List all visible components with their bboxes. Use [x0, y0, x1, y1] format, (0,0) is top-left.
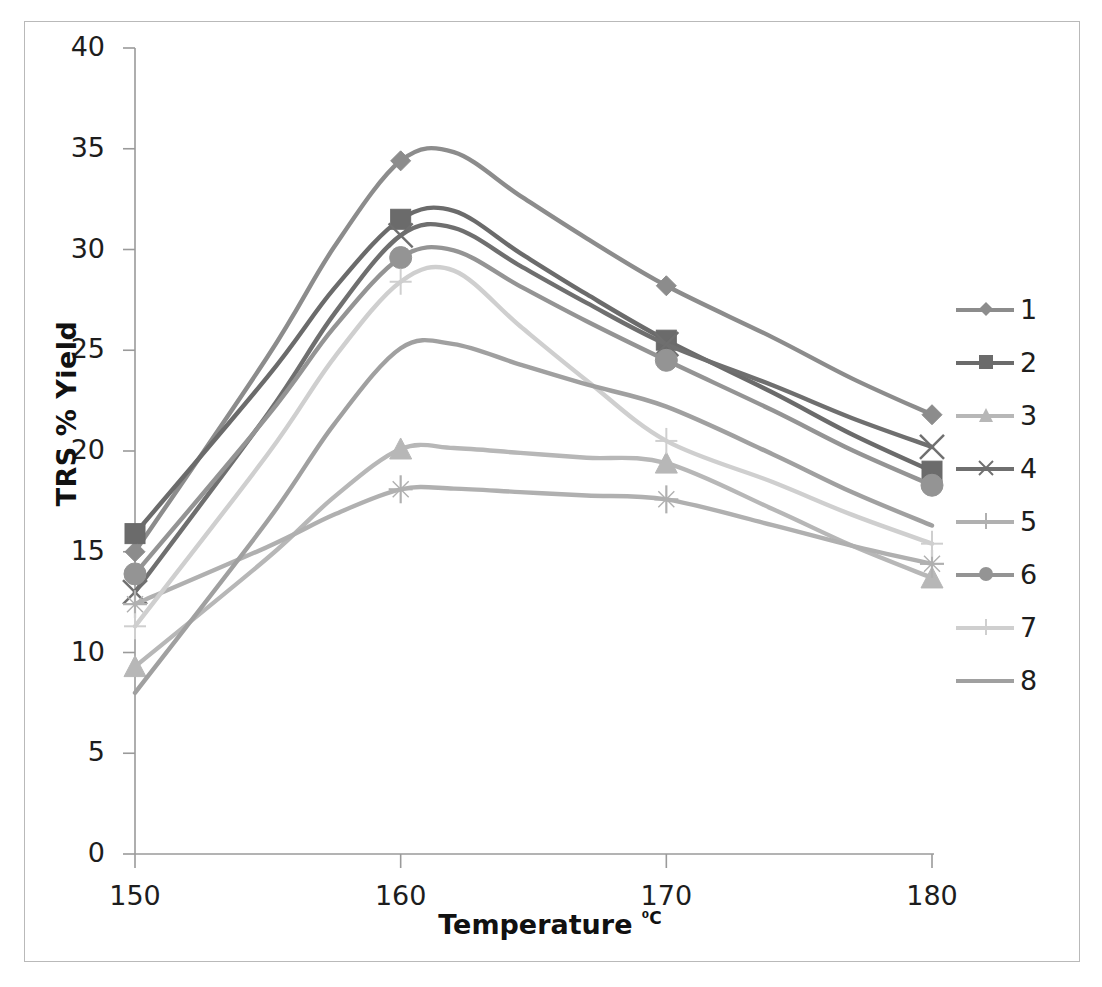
legend-swatch-4 — [956, 458, 1014, 480]
legend: 12345678 — [956, 283, 1071, 707]
legend-swatch-5 — [956, 511, 1014, 533]
y-tick-label: 5 — [45, 736, 105, 767]
legend-swatch-3 — [956, 405, 1014, 427]
y-tick-label: 40 — [45, 31, 105, 62]
data-point-2-150 — [125, 524, 145, 544]
legend-label-1: 1 — [1020, 296, 1037, 323]
legend-label-3: 3 — [1020, 402, 1037, 429]
x-axis-title: Temperature ⁰C — [300, 908, 800, 940]
legend-item-6[interactable]: 6 — [956, 548, 1071, 601]
data-point-4-180 — [920, 435, 944, 459]
legend-item-2[interactable]: 2 — [956, 336, 1071, 389]
x-tick-label: 160 — [356, 880, 446, 911]
legend-marker-triangle-icon — [977, 405, 995, 425]
data-point-6-170 — [655, 349, 677, 371]
data-point-6-180 — [921, 474, 943, 496]
legend-marker-dash-icon — [977, 617, 995, 637]
legend-label-5: 5 — [1020, 508, 1037, 535]
x-tick-label: 150 — [90, 880, 180, 911]
y-tick-label: 35 — [45, 132, 105, 163]
legend-item-7[interactable]: 7 — [956, 601, 1071, 654]
data-point-6-160 — [390, 247, 412, 269]
legend-label-7: 7 — [1020, 614, 1037, 641]
legend-marker-cross-icon — [977, 458, 995, 478]
y-axis-title: TRS % Yield — [51, 304, 82, 524]
legend-item-8[interactable]: 8 — [956, 654, 1071, 707]
y-tick-label: 15 — [45, 535, 105, 566]
legend-marker-diamond-icon — [977, 299, 995, 319]
chart-figure: 0510152025303540 150160170180 TRS % Yiel… — [0, 0, 1102, 987]
legend-item-4[interactable]: 4 — [956, 442, 1071, 495]
legend-swatch-2 — [956, 352, 1014, 374]
data-point-5-160 — [389, 475, 413, 503]
data-point-1-180 — [922, 405, 942, 425]
legend-item-1[interactable]: 1 — [956, 283, 1071, 336]
x-axis-title-degree: ⁰C — [642, 908, 662, 928]
x-tick-label: 170 — [621, 880, 711, 911]
data-point-1-170 — [656, 276, 676, 296]
axes — [123, 48, 934, 868]
x-axis-title-main: Temperature — [438, 909, 642, 940]
data-point-7-180 — [921, 531, 943, 557]
legend-marker-square-icon — [977, 352, 995, 372]
series-line-6 — [135, 247, 932, 574]
legend-marker-circle-icon — [977, 564, 995, 584]
legend-label-4: 4 — [1020, 455, 1037, 482]
legend-swatch-6 — [956, 564, 1014, 586]
data-point-6-150 — [124, 563, 146, 585]
y-tick-label: 10 — [45, 636, 105, 667]
data-point-2-160 — [391, 209, 411, 229]
series-line-3 — [135, 445, 932, 667]
data-series-group — [123, 148, 944, 693]
legend-marker-plus-icon — [977, 511, 995, 531]
series-line-5 — [135, 487, 932, 604]
plot-area — [0, 0, 1102, 987]
legend-label-8: 8 — [1020, 667, 1037, 694]
y-tick-label: 0 — [45, 837, 105, 868]
legend-label-6: 6 — [1020, 561, 1037, 588]
y-tick-label: 30 — [45, 233, 105, 264]
x-tick-label: 180 — [887, 880, 977, 911]
legend-swatch-7 — [956, 617, 1014, 639]
legend-item-3[interactable]: 3 — [956, 389, 1071, 442]
legend-marker-line-icon — [977, 670, 995, 690]
legend-item-5[interactable]: 5 — [956, 495, 1071, 548]
data-point-7-170 — [655, 428, 677, 454]
data-point-5-170 — [654, 485, 678, 513]
legend-label-2: 2 — [1020, 349, 1037, 376]
series-line-7 — [135, 267, 932, 626]
legend-swatch-1 — [956, 299, 1014, 321]
legend-swatch-8 — [956, 670, 1014, 692]
